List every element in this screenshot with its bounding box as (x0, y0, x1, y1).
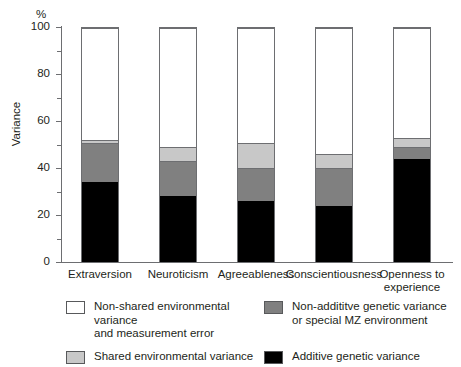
bar-segment-additive (82, 182, 118, 262)
y-tick-major (56, 262, 61, 263)
legend-label: Non-shared environmental varianceand mea… (94, 300, 264, 341)
legend-swatch-nonshared (66, 301, 85, 314)
bar-segment-additive (316, 206, 352, 262)
bar-segment-nonshared (394, 28, 430, 138)
legend-label: Additive genetic variance (292, 350, 420, 364)
legend-swatch-shared (66, 351, 85, 364)
y-tick-label: 0 (8, 256, 50, 268)
x-axis-label-line: Openness to (362, 268, 461, 281)
bar-segment-shared (238, 143, 274, 169)
bar-conscientiousness (315, 27, 353, 262)
bar-segment-nonadd (238, 168, 274, 201)
bar-segment-nonadd (160, 161, 196, 196)
legend-label-line: Non-shared environmental variance (94, 300, 264, 327)
bar-openness-to-experience (393, 27, 431, 262)
stacked-bar-chart-figure: % Variance 020406080100 ExtraversionNeur… (0, 0, 461, 367)
y-axis-unit-label: % (36, 8, 46, 20)
bar-segment-shared (394, 138, 430, 147)
bar-neuroticism (159, 27, 197, 262)
legend-item-shared: Shared environmental variance (66, 350, 264, 364)
bar-segment-additive (160, 196, 196, 262)
legend-label: Non-addititve genetic varianceor special… (292, 300, 447, 327)
legend-label-line: or special MZ environment (292, 314, 447, 328)
legend-item-nonadd: Non-addititve genetic varianceor special… (264, 300, 456, 341)
bar-segment-nonshared (316, 28, 352, 154)
bar-agreeableness (237, 27, 275, 262)
bar-segment-additive (238, 201, 274, 262)
bar-segment-nonadd (82, 143, 118, 183)
bar-segment-shared (316, 154, 352, 168)
x-axis-label-line: experience (362, 281, 461, 294)
bar-segment-nonadd (394, 147, 430, 159)
y-tick-label: 40 (8, 162, 50, 174)
x-axis-line (61, 262, 453, 263)
legend-item-nonshared: Non-shared environmental varianceand mea… (66, 300, 264, 341)
legend-label-line: Additive genetic variance (292, 350, 420, 364)
y-tick-label: 80 (8, 68, 50, 80)
plot-area (61, 27, 451, 262)
bar-segment-additive (394, 159, 430, 262)
bar-extraversion (81, 27, 119, 262)
legend-label-line: Non-addititve genetic variance (292, 300, 447, 314)
legend-label-line: Shared environmental variance (94, 350, 253, 364)
bar-segment-nonadd (316, 168, 352, 205)
y-tick-label: 20 (8, 209, 50, 221)
y-tick-label: 100 (8, 21, 50, 33)
y-tick-label: 60 (8, 115, 50, 127)
legend-label: Shared environmental variance (94, 350, 253, 364)
legend-label-line: and measurement error (94, 327, 264, 341)
bar-segment-nonshared (160, 28, 196, 147)
legend-swatch-additive (264, 351, 283, 364)
bar-segment-shared (160, 147, 196, 161)
x-axis-label: Openness toexperience (362, 268, 461, 294)
bar-segment-nonshared (238, 28, 274, 143)
chart-legend: Non-shared environmental varianceand mea… (66, 300, 456, 364)
bar-segment-nonshared (82, 28, 118, 140)
legend-swatch-nonadd (264, 301, 283, 314)
legend-item-additive: Additive genetic variance (264, 350, 456, 364)
